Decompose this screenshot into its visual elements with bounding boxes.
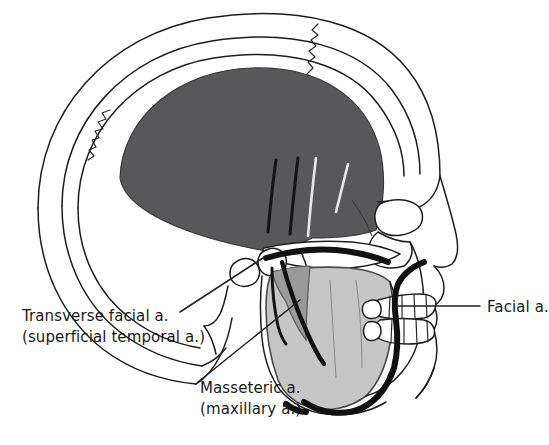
styloid-region	[204, 326, 216, 354]
orbit	[375, 200, 423, 236]
nasal-maxilla-profile	[434, 176, 458, 267]
lower-teeth-row	[375, 319, 434, 345]
label-transverse-facial-line2: (superficial temporal a.)	[22, 327, 205, 348]
mastoid-process	[204, 286, 228, 326]
lambdoid-suture	[88, 110, 110, 160]
occiput-contour	[38, 208, 196, 384]
molar-posterior-lower	[364, 321, 382, 340]
molar-posterior-upper	[362, 300, 381, 319]
label-transverse-facial-line1: Transverse facial a.	[22, 307, 169, 325]
label-masseteric-line2: (maxillary a.)	[200, 399, 301, 420]
label-facial-artery: Facial a.	[487, 297, 549, 318]
label-masseteric-artery: Masseteric a. (maxillary a.)	[200, 378, 301, 421]
label-facial-line1: Facial a.	[487, 298, 549, 316]
label-masseteric-line1: Masseteric a.	[200, 379, 301, 397]
label-transverse-facial-artery: Transverse facial a. (superficial tempor…	[22, 306, 205, 349]
frontal-bone-front-edge	[418, 176, 440, 208]
temporalis-muscle	[120, 68, 383, 254]
mandible-chin-contour	[416, 368, 434, 398]
